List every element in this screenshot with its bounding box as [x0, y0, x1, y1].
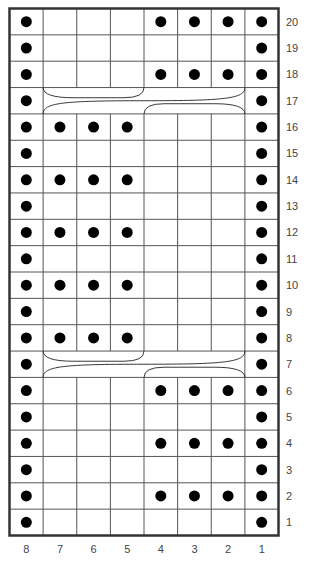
purl-dot-icon — [21, 227, 32, 238]
purl-dot-icon — [223, 69, 234, 80]
purl-dot-icon — [256, 411, 267, 422]
purl-dot-icon — [256, 385, 267, 396]
purl-dot-icon — [256, 332, 267, 343]
purl-dot-icon — [21, 174, 32, 185]
purl-dot-icon — [122, 280, 133, 291]
purl-dot-icon — [21, 95, 32, 106]
cable-cross-icon — [43, 351, 245, 377]
purl-dot-icon — [21, 122, 32, 133]
purl-dot-icon — [21, 148, 32, 159]
purl-dot-icon — [155, 490, 166, 501]
row-label: 9 — [286, 306, 292, 318]
purl-dot-icon — [122, 227, 133, 238]
purl-dot-icon — [21, 43, 32, 54]
purl-dot-icon — [256, 280, 267, 291]
purl-dot-icon — [21, 201, 32, 212]
row-label: 17 — [286, 95, 298, 107]
row-label: 2 — [286, 490, 292, 502]
cable-cross-icon — [144, 367, 245, 377]
cable-cross-icon — [43, 351, 144, 361]
purl-dot-icon — [256, 43, 267, 54]
purl-dot-icon — [122, 122, 133, 133]
purl-dot-icon — [256, 438, 267, 449]
row-label: 1 — [286, 516, 292, 528]
purl-dot-icon — [256, 227, 267, 238]
purl-dot-icon — [189, 16, 200, 27]
row-label: 3 — [286, 464, 292, 476]
purl-dot-icon — [122, 332, 133, 343]
purl-dot-icon — [256, 359, 267, 370]
cable-cross-icon — [144, 104, 245, 114]
purl-dot-icon — [21, 253, 32, 264]
column-label: 5 — [124, 543, 130, 555]
column-labels: 87654321 — [23, 543, 265, 555]
purl-dot-icon — [256, 174, 267, 185]
column-label: 1 — [259, 543, 265, 555]
purl-dot-icon — [88, 227, 99, 238]
column-label: 7 — [57, 543, 63, 555]
row-label: 16 — [286, 121, 298, 133]
purl-dot-icon — [21, 359, 32, 370]
row-label: 18 — [286, 68, 298, 80]
purl-dot-icon — [223, 490, 234, 501]
purl-dot-icon — [189, 385, 200, 396]
purl-dot-icon — [189, 438, 200, 449]
purl-dot-icon — [256, 490, 267, 501]
purl-dot-icon — [21, 332, 32, 343]
column-label: 3 — [191, 543, 197, 555]
purl-dot-icon — [54, 280, 65, 291]
row-label: 14 — [286, 174, 298, 186]
row-label: 6 — [286, 385, 292, 397]
purl-dot-icon — [256, 517, 267, 528]
purl-dot-icon — [88, 174, 99, 185]
purl-dot-icon — [54, 122, 65, 133]
row-label: 8 — [286, 332, 292, 344]
purl-dot-icon — [256, 95, 267, 106]
purl-dot-icon — [122, 174, 133, 185]
purl-dot-icon — [54, 227, 65, 238]
purl-dot-icon — [223, 16, 234, 27]
purl-dot-icon — [256, 122, 267, 133]
purl-dot-icon — [88, 280, 99, 291]
purl-dot-icon — [223, 438, 234, 449]
row-label: 13 — [286, 200, 298, 212]
purl-dot-icon — [256, 253, 267, 264]
purl-dot-icon — [21, 280, 32, 291]
purl-dot-icon — [256, 69, 267, 80]
purl-dot-icon — [21, 517, 32, 528]
column-label: 4 — [158, 543, 164, 555]
row-label: 12 — [286, 226, 298, 238]
purl-dot-icon — [189, 490, 200, 501]
row-label: 11 — [286, 253, 297, 265]
purl-dot-icon — [256, 201, 267, 212]
row-label: 15 — [286, 147, 298, 159]
row-labels: 2019181716151413121110987654321 — [286, 16, 298, 529]
purl-dot-icon — [88, 332, 99, 343]
column-label: 8 — [23, 543, 29, 555]
purl-dot-icon — [155, 385, 166, 396]
purl-dot-icon — [155, 16, 166, 27]
cable-cross-icon — [43, 88, 245, 114]
purl-dot-icon — [21, 69, 32, 80]
purl-dot-icon — [189, 69, 200, 80]
purl-dot-icon — [256, 464, 267, 475]
purl-dot-icon — [21, 306, 32, 317]
purl-dot-icon — [21, 385, 32, 396]
row-label: 19 — [286, 42, 298, 54]
row-label: 20 — [286, 16, 298, 28]
purl-dot-icon — [21, 16, 32, 27]
column-label: 2 — [225, 543, 231, 555]
purl-dot-icon — [256, 16, 267, 27]
row-label: 4 — [286, 437, 292, 449]
purl-dot-icon — [54, 174, 65, 185]
purl-dot-icon — [256, 306, 267, 317]
row-label: 7 — [286, 358, 292, 370]
purl-dot-icon — [21, 438, 32, 449]
purl-dot-icon — [223, 385, 234, 396]
purl-dot-icon — [256, 148, 267, 159]
row-label: 5 — [286, 411, 292, 423]
purl-dot-icon — [21, 464, 32, 475]
purl-dot-icon — [21, 490, 32, 501]
purl-dot-icon — [155, 438, 166, 449]
purl-dot-icon — [88, 122, 99, 133]
